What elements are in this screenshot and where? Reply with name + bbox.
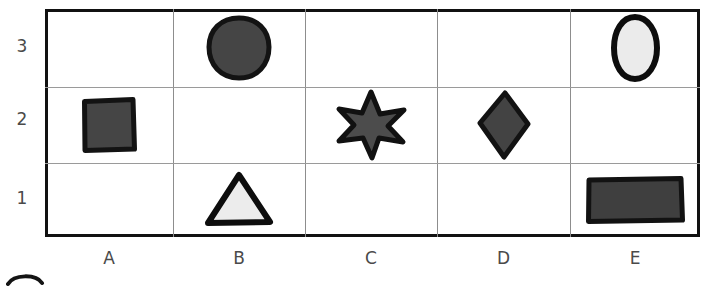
row-label-1: 1	[5, 188, 39, 208]
cell-e3-ellipse	[570, 9, 700, 87]
row-label-3: 3	[5, 36, 39, 56]
column-label-e: E	[570, 248, 700, 268]
cut-off-arc-icon	[6, 270, 46, 290]
partial-circle-icon	[6, 270, 46, 290]
square-icon	[78, 94, 140, 156]
cell-d2-diamond	[437, 87, 570, 163]
ellipse-icon	[609, 13, 661, 83]
column-label-a: A	[45, 248, 173, 268]
cell-a2-square	[45, 87, 173, 163]
diamond-icon	[476, 89, 532, 161]
star-icon	[335, 89, 407, 161]
row-label-2: 2	[5, 109, 39, 129]
rectangle-icon	[583, 173, 687, 227]
column-label-c: C	[305, 248, 437, 268]
cell-e1-rectangle	[570, 163, 700, 237]
cell-c2-star	[305, 87, 437, 163]
circle-icon	[205, 14, 273, 82]
column-label-d: D	[437, 248, 570, 268]
cell-b3-circle	[173, 9, 305, 87]
cell-b1-triangle	[173, 163, 305, 237]
column-label-b: B	[173, 248, 305, 268]
triangle-icon	[203, 170, 275, 230]
